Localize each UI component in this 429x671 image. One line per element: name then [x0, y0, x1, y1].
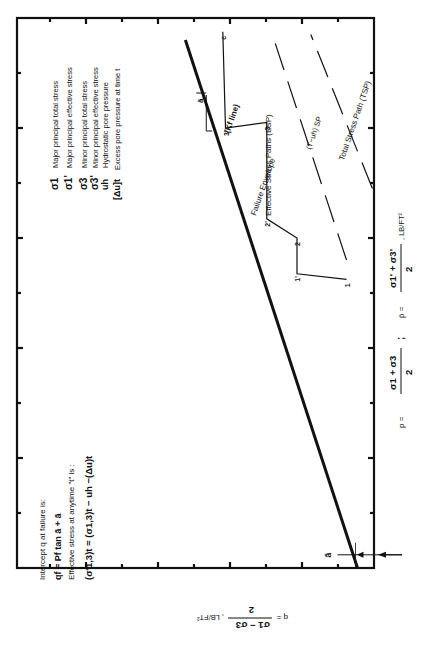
q-axis-label: q = σ1 − σ3 2 , LB/FT² — [196, 605, 288, 631]
origin-arrow-head — [378, 552, 386, 558]
label-layer: 11'22'33'cāāFailure Envelope(Kf line)Eff… — [196, 36, 402, 568]
intercept-arrow-head — [357, 552, 364, 558]
p-axis-label: p = σ1 + σ3 2 ; p̄ = σ1' + σ3' 2 , LB/FT… — [387, 212, 414, 428]
legend-symbol: σ1 — [49, 177, 60, 190]
legend-text: Minor principal total stress — [80, 81, 89, 168]
note-intercept-formula: qf = Pf tan ā + ā — [53, 512, 63, 580]
series-layer — [185, 32, 372, 568]
legend-text: Excess pore pressure at time t — [113, 68, 122, 170]
legend-text: Major principal total stress — [51, 81, 60, 168]
legend: σ1 Major principal total stress σ1' Majo… — [49, 67, 122, 200]
legend-text: Hydrostatic pore pressure — [101, 82, 110, 168]
legend-symbol: uh — [100, 179, 110, 190]
esp-point-label: 2 — [294, 242, 301, 246]
q-fraction-denominator: 2 — [249, 605, 254, 616]
esp-point-label: 2' — [264, 221, 271, 227]
total-stress-path-line — [311, 35, 373, 189]
notes: Intercept q at failure is: qf = Pf tan ā… — [38, 455, 94, 580]
p-units: , LB/FT² — [397, 212, 406, 240]
stress-path-diagram: 11'22'33'cāāFailure Envelope(Kf line)Eff… — [0, 0, 429, 671]
p-label: p = — [397, 416, 406, 428]
note-effective-heading: Effective stress at anytime "t" is : — [67, 464, 76, 580]
legend-text: Minor principal effective stress — [91, 67, 100, 168]
p-fraction-denominator: 2 — [403, 370, 414, 375]
tuh-sp-label: (T−uh) SP — [304, 115, 324, 150]
legend-symbol: [Δu]t — [112, 179, 122, 200]
effective-stress-path-line — [223, 32, 347, 279]
legend-symbol: σ1' — [63, 175, 74, 190]
esp-label: Effective Stress Paths (ESP) — [264, 114, 273, 216]
intercept-symbol: ā — [324, 552, 334, 558]
tsp-label: Total Stress Path (TSP) — [337, 79, 373, 161]
p-bar-fraction-numerator: σ1' + σ3' — [387, 249, 398, 288]
p-bar-label: p̄ = — [397, 306, 406, 318]
slope-symbol: ā — [196, 98, 205, 103]
esp-point-label: 1 — [344, 283, 351, 287]
esp-point-label: c — [220, 36, 227, 40]
note-effective-formula: (σ'1,3)t = (σ1,3)t − uh −(Δu)t — [83, 455, 94, 580]
q-fraction-numerator: σ1 − σ3 — [236, 620, 270, 631]
p-fraction-numerator: σ1 + σ3 — [387, 356, 398, 390]
p-bar-fraction-denominator: 2 — [403, 267, 414, 272]
note-intercept-heading: Intercept q at failure is: — [38, 499, 47, 580]
q-units: , LB/FT² — [196, 613, 224, 622]
legend-symbol: σ3 — [78, 177, 89, 190]
q-label: q = — [276, 613, 288, 622]
legend-text: Major principal effective stress — [65, 67, 74, 168]
legend-symbol: σ3' — [89, 175, 100, 190]
esp-point-label: 1' — [294, 276, 301, 282]
p-separator: ; — [395, 337, 406, 340]
